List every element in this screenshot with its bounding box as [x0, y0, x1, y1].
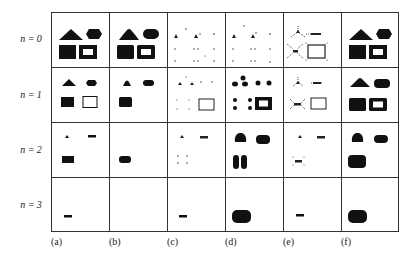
cell-n2-e: [283, 122, 341, 177]
cell-n0-e: [283, 12, 341, 67]
row-label-n2: n = 2: [14, 144, 48, 155]
cell-n1-e: [283, 67, 341, 122]
column-label-d: (d): [225, 236, 237, 247]
column-label-f: (f): [341, 236, 351, 247]
cell-n1-a: [51, 67, 109, 122]
cell-n0-d: [225, 12, 283, 67]
cell-n2-b: [109, 122, 167, 177]
cell-n3-e: [283, 177, 341, 232]
row-label-n3: n = 3: [14, 199, 48, 210]
cell-n1-f: [341, 67, 399, 122]
cell-n1-d: [225, 67, 283, 122]
row-label-n1: n = 1: [14, 89, 48, 100]
solid-rect-shape: [59, 45, 76, 59]
row-label-n0: n = 0: [14, 33, 48, 44]
cell-n0-c: [167, 12, 225, 67]
cell-n1-b: [109, 67, 167, 122]
cell-n3-d: [225, 177, 283, 232]
column-label-b: (b): [109, 236, 121, 247]
cell-n3-f: [341, 177, 399, 232]
triangle-shape: [59, 29, 83, 40]
column-label-e: (e): [283, 236, 294, 247]
cell-n0-f: [341, 12, 399, 67]
column-label-a: (a): [51, 236, 62, 247]
column-label-c: (c): [167, 236, 178, 247]
cell-n3-b: [109, 177, 167, 232]
hexagon-shape: [86, 29, 102, 39]
cell-n1-c: [167, 67, 225, 122]
cell-n0-b: [109, 12, 167, 67]
cell-n0-a: [51, 12, 109, 67]
cell-n2-d: [225, 122, 283, 177]
cell-n2-a: [51, 122, 109, 177]
hollow-rect-shape: [83, 49, 93, 55]
cell-n3-a: [51, 177, 109, 232]
cell-n2-f: [341, 122, 399, 177]
cell-n2-c: [167, 122, 225, 177]
cell-n3-c: [167, 177, 225, 232]
